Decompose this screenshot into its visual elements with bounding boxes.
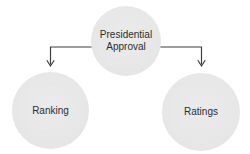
connector-right [160, 47, 202, 65]
arrowhead-down-right-icon [198, 60, 205, 66]
node-ratings-label: Ratings [184, 106, 218, 118]
node-ranking-label: Ranking [32, 105, 69, 117]
node-presidential-approval: Presidential Approval [91, 6, 161, 76]
node-ratings: Ratings [162, 73, 240, 151]
connector-left [51, 47, 94, 65]
node-ranking: Ranking [12, 72, 89, 149]
approval-diagram: Presidential Approval Ranking Ratings [0, 0, 250, 154]
arrowhead-down-left-icon [47, 60, 54, 66]
node-presidential-approval-label: Presidential Approval [94, 29, 158, 53]
